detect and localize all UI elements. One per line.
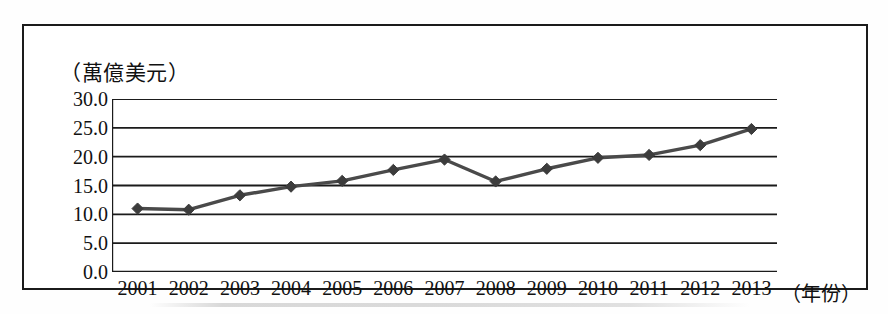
data-point-markers <box>132 123 757 215</box>
figure-page: （萬億美元） 30.025.020.015.010.05.00.0 200120… <box>0 0 888 314</box>
data-point-marker <box>285 181 296 192</box>
y-axis-unit-label: （萬億美元） <box>60 56 189 86</box>
x-axis-tick-label: 2012 <box>680 278 720 298</box>
gridlines <box>112 99 777 272</box>
x-axis-tick-label: 2013 <box>731 278 771 298</box>
data-point-marker <box>592 152 603 163</box>
data-point-marker <box>695 140 706 151</box>
figure-frame: （萬億美元） 30.025.020.015.010.05.00.0 200120… <box>22 24 868 290</box>
x-axis-tick-label: 2010 <box>578 278 618 298</box>
data-point-marker <box>541 163 552 174</box>
plot-area <box>112 99 777 272</box>
y-axis-tick-label: 0.0 <box>56 262 108 282</box>
data-point-marker <box>746 123 757 134</box>
data-point-marker <box>388 164 399 175</box>
y-axis-tick-label: 25.0 <box>56 118 108 138</box>
data-point-marker <box>234 190 245 201</box>
x-axis-tick-label: 2003 <box>220 278 260 298</box>
data-line <box>138 129 752 210</box>
y-axis-tick-labels: 30.025.020.015.010.05.00.0 <box>52 99 108 272</box>
x-axis-tick-label: 2002 <box>169 278 209 298</box>
data-point-marker <box>644 149 655 160</box>
x-axis-tick-label: 2004 <box>271 278 311 298</box>
x-axis-tick-label: 2008 <box>476 278 516 298</box>
y-axis-tick-label: 5.0 <box>56 233 108 253</box>
x-axis-tick-label: 2009 <box>527 278 567 298</box>
x-axis-tick-label: 2005 <box>322 278 362 298</box>
x-axis-tick-label: 2007 <box>425 278 465 298</box>
y-axis-tick-label: 20.0 <box>56 147 108 167</box>
data-point-marker <box>132 203 143 214</box>
x-axis-unit-label: （年份） <box>781 278 861 307</box>
data-point-marker <box>439 154 450 165</box>
scan-artifact <box>150 303 750 307</box>
y-axis-tick-label: 15.0 <box>56 176 108 196</box>
x-axis-tick-label: 2006 <box>373 278 413 298</box>
y-axis-tick-label: 10.0 <box>56 204 108 224</box>
x-axis-tick-label: 2001 <box>118 278 158 298</box>
x-axis-tick-label: 2011 <box>629 278 668 298</box>
line-chart <box>112 99 777 272</box>
y-axis-tick-label: 30.0 <box>56 89 108 109</box>
